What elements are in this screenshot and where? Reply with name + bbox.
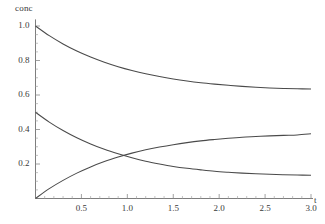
x-tick-label: 1.5 <box>160 203 186 213</box>
x-tick-label: 1.0 <box>114 203 140 213</box>
x-tick-label: 3.0 <box>298 203 324 213</box>
plot-canvas <box>0 0 325 224</box>
y-tick-label: 1.0 <box>4 20 30 30</box>
x-tick-label: 2.0 <box>206 203 232 213</box>
y-tick-label: 0.4 <box>4 124 30 134</box>
x-tick-label: 0.5 <box>68 203 94 213</box>
data-curve-curve-a <box>36 26 312 89</box>
y-tick-label: 0.8 <box>4 55 30 65</box>
y-tick-label: 0.2 <box>4 158 30 168</box>
data-curve-curve-b <box>36 112 312 175</box>
y-tick-label: 0.6 <box>4 89 30 99</box>
concentration-vs-time-plot: conc t 0.20.40.60.81.0 0.51.01.52.02.53.… <box>0 0 325 224</box>
x-tick-label: 2.5 <box>252 203 278 213</box>
